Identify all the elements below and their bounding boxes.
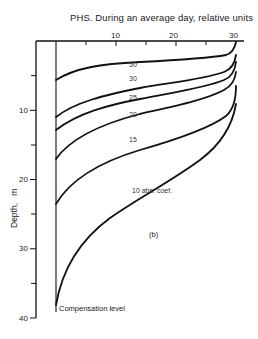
curve-label-25: 25	[129, 94, 137, 101]
curve-30	[56, 55, 236, 117]
curve-label-15: 15	[129, 136, 137, 143]
curve-50	[56, 42, 236, 80]
y-tick-label-40: 40	[19, 314, 28, 323]
y-tick-label-20: 20	[19, 175, 28, 184]
curve-label-20: 20	[129, 111, 137, 118]
curve-label-50: 50	[129, 61, 137, 68]
y-tick-label-10: 10	[19, 106, 28, 115]
x-ticks	[86, 41, 206, 46]
compensation-level-label: Compensation level	[59, 304, 125, 313]
curve-label-10: 10 abs. coef.	[132, 187, 172, 194]
x-tick-label-10: 10	[111, 31, 120, 40]
y-axis-label: Depth, m	[9, 189, 19, 228]
x-tick-label-30: 30	[229, 31, 238, 40]
curve-label-30: 30	[129, 75, 137, 82]
x-tick-label-20: 20	[169, 31, 178, 40]
panel-label: (b)	[149, 230, 159, 239]
y-ticks	[30, 76, 36, 318]
chart-canvas: 10 20 30 10 20 30 40 Depth, m 50 30 25 2…	[0, 0, 258, 339]
y-tick-label-30: 30	[19, 244, 28, 253]
curve-10-abs-coef	[56, 104, 236, 305]
